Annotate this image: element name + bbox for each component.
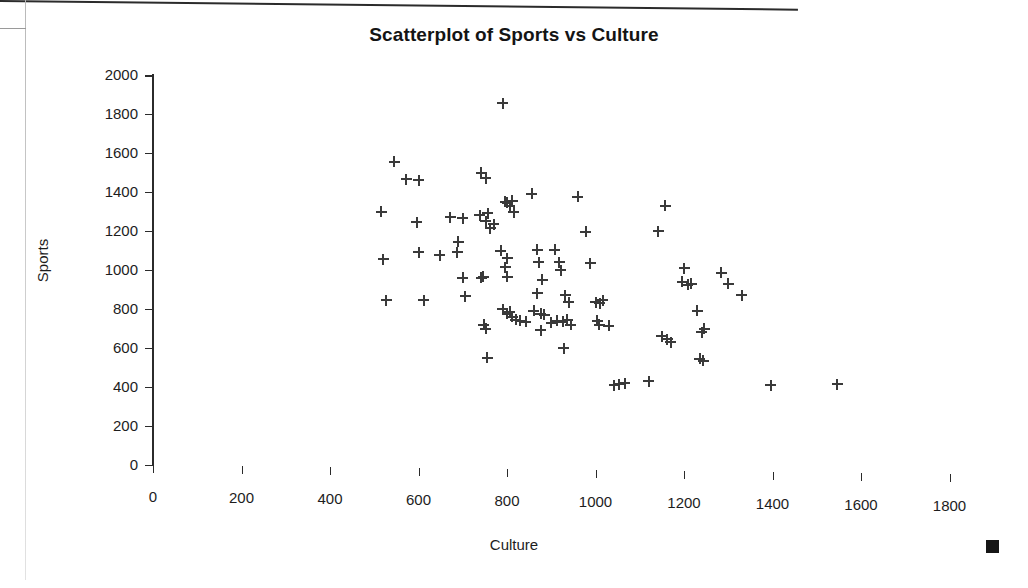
data-point [502, 271, 513, 282]
y-axis-tick-label: 400 [78, 378, 138, 395]
y-axis-tick-label: 1400 [78, 183, 138, 200]
data-point [378, 254, 389, 265]
data-point [480, 173, 491, 184]
data-point [452, 247, 463, 258]
y-axis-tick [145, 387, 153, 388]
data-point [653, 226, 664, 237]
data-point [656, 331, 667, 342]
data-point [682, 279, 693, 290]
data-point [418, 295, 429, 306]
data-point [413, 247, 424, 258]
y-axis-tick [145, 270, 153, 271]
y-axis-tick-label: 0 [78, 456, 138, 473]
y-axis-tick-label: 1600 [78, 144, 138, 161]
x-axis-line [0, 0, 798, 11]
y-axis-tick [145, 153, 153, 154]
data-point [478, 319, 489, 330]
data-point [411, 217, 422, 228]
plot-canvas: 0200400600800100012001400160018002000 02… [0, 0, 1028, 588]
scatter-chart: Scatterplot of Sports vs Culture 0200400… [0, 0, 1028, 588]
data-point [555, 265, 566, 276]
data-point [594, 298, 605, 309]
data-point [474, 210, 485, 221]
data-point [502, 197, 513, 208]
data-point [532, 288, 543, 299]
data-point [560, 290, 571, 301]
x-axis-tick-label: 1000 [566, 493, 626, 510]
data-point [565, 319, 576, 330]
data-point [694, 353, 705, 364]
data-point [686, 278, 697, 289]
data-point [590, 297, 601, 308]
data-point [507, 311, 518, 322]
data-point [520, 316, 531, 327]
data-point [535, 325, 546, 336]
data-point [660, 200, 671, 211]
data-point [528, 305, 539, 316]
data-point [500, 196, 511, 207]
data-point [549, 244, 560, 255]
data-point [832, 379, 843, 390]
y-axis-tick-label: 1800 [78, 105, 138, 122]
data-point [482, 352, 493, 363]
data-point [585, 258, 596, 269]
data-point [594, 319, 605, 330]
data-point [580, 226, 591, 237]
data-point [662, 334, 673, 345]
page-corner-mark-icon [986, 540, 999, 553]
data-point [389, 156, 400, 167]
x-axis-tick-label: 1600 [831, 496, 891, 513]
y-axis-tick [145, 348, 153, 349]
y-axis-tick-label: 800 [78, 300, 138, 317]
data-point [460, 291, 471, 302]
data-point [551, 315, 562, 326]
data-point [736, 290, 747, 301]
y-axis-tick [145, 192, 153, 193]
data-point [413, 175, 424, 186]
data-point [609, 380, 620, 391]
data-point [765, 380, 776, 391]
data-point [677, 276, 688, 287]
data-point [665, 337, 676, 348]
x-axis-tick-label: 800 [477, 492, 537, 509]
data-point [558, 343, 569, 354]
scan-edge-vertical-icon [25, 0, 26, 580]
data-point [546, 317, 557, 328]
y-axis-tick [145, 465, 153, 466]
y-axis-tick [145, 309, 153, 310]
y-axis-tick-label: 1200 [78, 222, 138, 239]
x-axis-tick [419, 468, 420, 476]
x-axis-tick-label: 400 [300, 490, 360, 507]
data-point [445, 212, 456, 223]
x-axis-tick [950, 474, 951, 482]
data-point [554, 257, 565, 268]
data-point [478, 271, 489, 282]
data-point [723, 278, 734, 289]
y-axis-tick [145, 75, 153, 77]
data-point [562, 314, 573, 325]
data-point [614, 379, 625, 390]
data-point [453, 236, 464, 247]
data-point [679, 263, 690, 274]
y-axis-tick [145, 231, 153, 232]
data-point [535, 308, 546, 319]
data-point [480, 323, 491, 334]
x-axis-tick [330, 467, 331, 475]
x-axis-tick-label: 1800 [920, 497, 980, 514]
y-axis-tick [145, 114, 153, 115]
data-point [482, 208, 493, 219]
data-point [504, 200, 515, 211]
data-point [515, 315, 526, 326]
data-point [563, 297, 574, 308]
data-point [619, 378, 630, 389]
x-axis-tick-label: 1400 [743, 495, 803, 512]
data-point [698, 355, 709, 366]
data-point [597, 295, 608, 306]
data-point [716, 267, 727, 278]
data-point [502, 308, 513, 319]
data-point [500, 262, 511, 273]
data-point [508, 207, 519, 218]
x-axis-tick-label: 200 [212, 489, 272, 506]
x-axis-tick [507, 469, 508, 477]
data-point [539, 309, 550, 320]
